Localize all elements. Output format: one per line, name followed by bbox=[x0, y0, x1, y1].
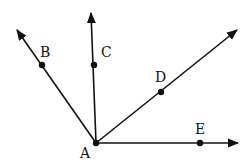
label-c: C bbox=[101, 44, 112, 60]
point-b bbox=[39, 62, 45, 68]
ray-ac bbox=[91, 13, 96, 143]
point-a bbox=[93, 140, 99, 146]
point-e bbox=[197, 140, 203, 146]
label-d: D bbox=[155, 69, 166, 85]
ray-ab bbox=[17, 30, 96, 143]
label-e: E bbox=[195, 121, 205, 137]
ray-ad bbox=[96, 30, 237, 143]
point-d bbox=[158, 89, 164, 95]
label-b: B bbox=[40, 44, 50, 60]
point-c bbox=[91, 62, 97, 68]
label-a: A bbox=[79, 145, 91, 161]
diagram-svg: BCDEA bbox=[0, 0, 251, 166]
ray-diagram: BCDEA bbox=[0, 0, 251, 166]
